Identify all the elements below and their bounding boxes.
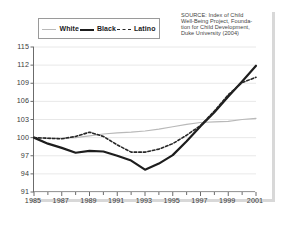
x-axis-tick-label: 1999 [213, 196, 241, 205]
y-axis-tick-label: 97 [21, 152, 29, 160]
line-chart-svg [34, 47, 256, 192]
chart-figure: 919497100103106109112115 198519871989199… [0, 0, 283, 225]
plot-area [33, 47, 255, 192]
legend-line-white-icon [42, 25, 56, 32]
x-axis-tick-label: 1995 [158, 196, 186, 205]
legend-line-black-icon [80, 25, 94, 32]
series-line-white [34, 118, 256, 138]
series-line-black [34, 66, 256, 170]
y-axis-tick-label: 115 [17, 43, 29, 51]
x-axis-tick-label: 2001 [241, 196, 269, 205]
legend-label-black: Black [97, 25, 116, 32]
legend-label-white: White [59, 25, 79, 32]
source-note-line-4: Duke University (2004) [181, 30, 263, 36]
y-axis-tick-label: 100 [17, 134, 29, 142]
legend-item-black: Black [80, 25, 116, 32]
y-axis-labels: 919497100103106109112115 [8, 0, 29, 225]
plot-inner [34, 47, 255, 191]
x-axis-tick-label: 1987 [47, 196, 75, 205]
x-axis-labels: 198519871989199119931995199719992001 [0, 196, 283, 210]
y-axis-tick-label: 103 [17, 116, 29, 124]
chart-legend: White Black Latino [38, 18, 160, 39]
y-axis-tick-label: 94 [21, 170, 29, 178]
x-axis-tick-label: 1989 [75, 196, 103, 205]
y-axis-tick-label: 112 [17, 61, 29, 69]
series-line-latino [34, 77, 256, 152]
legend-item-white: White [42, 25, 79, 32]
legend-label-latino: Latino [134, 25, 156, 32]
legend-item-latino: Latino [117, 25, 156, 32]
y-axis-tick-label: 106 [17, 97, 29, 105]
x-axis-tick-label: 1991 [102, 196, 130, 205]
x-axis-tick-label: 1985 [19, 196, 47, 205]
x-axis-tick-label: 1997 [186, 196, 214, 205]
x-axis-tick-label: 1993 [130, 196, 158, 205]
y-axis-tick-label: 91 [21, 188, 29, 196]
legend-line-latino-icon [117, 25, 131, 32]
source-note: SOURCE: Index of Child Well-Being Projec… [181, 12, 263, 36]
y-axis-tick-label: 109 [17, 79, 29, 87]
